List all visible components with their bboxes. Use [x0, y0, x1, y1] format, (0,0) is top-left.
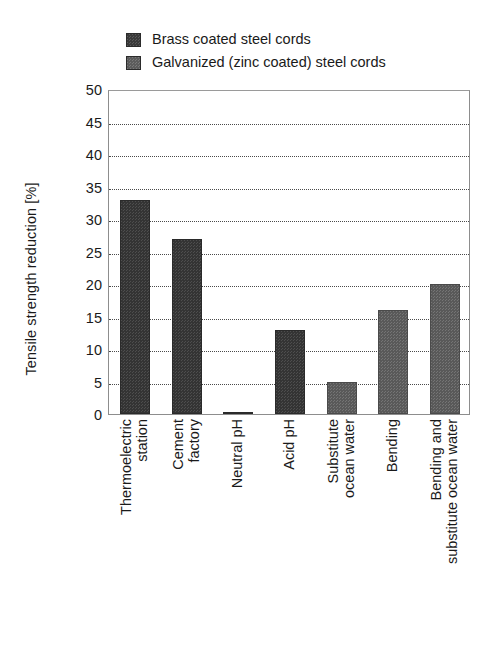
y-axis-tick-label: 45 — [58, 115, 102, 130]
legend-swatch-galvanized-icon — [126, 56, 141, 70]
chart-legend: Brass coated steel cords Galvanized (zin… — [126, 28, 486, 74]
y-axis-tick-label: 5 — [58, 375, 102, 390]
bar-brass — [223, 412, 253, 414]
y-axis-tick-label: 20 — [58, 278, 102, 293]
x-axis-tick-label-line: Thermoelectric — [118, 419, 134, 515]
bar-brass — [120, 200, 150, 415]
bar-galv — [430, 284, 460, 414]
legend-item-galvanized: Galvanized (zinc coated) steel cords — [126, 51, 486, 74]
y-axis-tick-label: 0 — [58, 408, 102, 423]
x-axis-tick-label-line: station — [134, 419, 150, 462]
y-axis-tick-label: 30 — [58, 213, 102, 228]
x-axis-tick-label: Thermoelectricstation — [114, 419, 154, 629]
legend-swatch-brass-icon — [126, 33, 141, 47]
x-axis-tick-labels: ThermoelectricstationCementfactoryNeutra… — [108, 419, 470, 644]
x-axis-tick-label-line: substitute ocean water — [444, 419, 460, 564]
x-axis-tick-label-line: Acid pH — [281, 419, 297, 470]
y-axis-tick-label: 40 — [58, 148, 102, 163]
x-axis-tick-label-line: ocean water — [341, 419, 357, 498]
x-axis-tick-label-line: Substitute — [324, 419, 340, 484]
plot-area — [108, 90, 470, 415]
x-axis-tick-label: Acid pH — [269, 419, 309, 629]
bars-layer — [109, 91, 469, 414]
x-axis-tick-label: Cementfactory — [166, 419, 206, 629]
bar-chart-figure: Brass coated steel cords Galvanized (zin… — [0, 0, 498, 653]
x-axis-tick-label-line: Bending and — [428, 419, 444, 500]
y-axis-tick-label: 35 — [58, 180, 102, 195]
x-axis-tick-label-line: factory — [186, 419, 202, 463]
x-axis-tick-label-line: Bending — [384, 419, 400, 472]
x-axis-tick-label: Bending andsubstitute ocean water — [424, 419, 464, 629]
y-axis-tick-label: 10 — [58, 343, 102, 358]
x-axis-tick-label: Bending — [372, 419, 412, 629]
x-axis-tick-label-line: Cement — [169, 419, 185, 470]
y-axis-tick-labels: 50454035302520151050 — [54, 90, 102, 415]
bar-galv — [378, 310, 408, 414]
y-axis-tick-label: 25 — [58, 245, 102, 260]
bar-brass — [275, 330, 305, 415]
y-axis-title: Tensile strength reduction [%] — [18, 116, 44, 442]
bar-brass — [172, 239, 202, 415]
y-axis-tick-label: 15 — [58, 310, 102, 325]
bar-galv — [327, 382, 357, 415]
legend-label-galvanized: Galvanized (zinc coated) steel cords — [152, 55, 386, 70]
legend-label-brass: Brass coated steel cords — [152, 32, 311, 47]
y-axis-tick-label: 50 — [58, 83, 102, 98]
x-axis-tick-label: Neutral pH — [217, 419, 257, 629]
x-axis-tick-label: Substituteocean water — [321, 419, 361, 629]
legend-item-brass: Brass coated steel cords — [126, 28, 486, 51]
x-axis-tick-label-line: Neutral pH — [229, 419, 245, 488]
